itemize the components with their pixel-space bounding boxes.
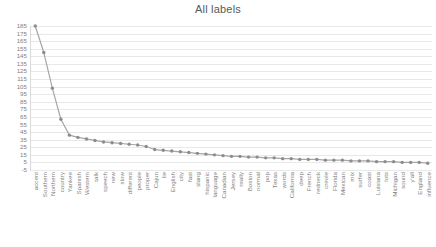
- data-point-marker: [255, 155, 258, 158]
- data-point-marker: [418, 161, 421, 164]
- data-point-marker: [281, 157, 284, 160]
- data-point-marker: [247, 155, 250, 158]
- y-axis-tick-label: 65: [20, 114, 27, 120]
- data-point-marker: [127, 143, 130, 146]
- data-point-marker: [366, 159, 369, 162]
- plot-area: [31, 26, 432, 170]
- data-point-marker: [34, 24, 37, 27]
- data-point-marker: [85, 137, 88, 140]
- data-point-marker: [93, 139, 96, 142]
- x-axis-tick-label: influence: [424, 172, 431, 197]
- data-point-marker: [76, 136, 79, 139]
- data-point-marker: [298, 158, 301, 161]
- data-point-marker: [230, 155, 233, 158]
- data-point-marker: [383, 160, 386, 163]
- data-point-marker: [264, 156, 267, 159]
- data-point-marker: [196, 152, 199, 155]
- y-axis-tick-label: -5: [21, 167, 27, 173]
- data-point-marker: [358, 159, 361, 162]
- y-axis-tick-label: 125: [17, 68, 27, 74]
- data-point-marker: [221, 154, 224, 157]
- data-point-marker: [400, 161, 403, 164]
- data-point-marker: [102, 140, 105, 143]
- y-axis: -551525354555657585951051151251351451551…: [0, 26, 29, 170]
- data-point-marker: [119, 142, 122, 145]
- chart-title: All labels: [0, 3, 436, 15]
- data-point-marker: [349, 159, 352, 162]
- data-point-marker: [59, 118, 62, 121]
- data-point-marker: [170, 149, 173, 152]
- chart-container: All labels -5515253545556575859510511512…: [0, 0, 436, 247]
- x-axis-tick: influence: [422, 172, 434, 246]
- data-point-marker: [375, 160, 378, 163]
- y-axis-tick-label: 15: [20, 152, 27, 158]
- y-axis-tick-label: 165: [17, 38, 27, 44]
- y-axis-tick-label: 5: [24, 159, 27, 165]
- y-axis-tick-label: 35: [20, 137, 27, 143]
- y-axis-tick-label: 145: [17, 53, 27, 59]
- y-axis-tick-label: 155: [17, 46, 27, 52]
- data-point-marker: [332, 158, 335, 161]
- y-axis-tick-label: 55: [20, 122, 27, 128]
- data-point-marker: [204, 152, 207, 155]
- y-axis-tick-label: 135: [17, 61, 27, 67]
- data-point-marker: [238, 155, 241, 158]
- data-point-marker: [136, 143, 139, 146]
- data-point-marker: [272, 156, 275, 159]
- y-axis-tick-label: 85: [20, 99, 27, 105]
- data-point-marker: [426, 161, 429, 164]
- x-axis: accentSouthernNortherncountryYankeeSpani…: [31, 172, 432, 247]
- data-point-marker: [68, 133, 71, 136]
- y-axis-tick-label: 185: [17, 23, 27, 29]
- data-point-marker: [290, 157, 293, 160]
- data-point-marker: [179, 150, 182, 153]
- data-point-marker: [153, 148, 156, 151]
- y-axis-tick-label: 175: [17, 31, 27, 37]
- data-point-marker: [144, 145, 147, 148]
- data-point-marker: [162, 149, 165, 152]
- y-axis-tick-label: 95: [20, 91, 27, 97]
- series-line: [35, 26, 427, 163]
- line-series: [31, 26, 432, 170]
- data-point-marker: [42, 51, 45, 54]
- y-axis-tick-label: 75: [20, 106, 27, 112]
- y-axis-tick-label: 45: [20, 129, 27, 135]
- data-point-marker: [51, 86, 54, 89]
- data-point-marker: [341, 158, 344, 161]
- data-point-marker: [213, 153, 216, 156]
- data-point-marker: [110, 141, 113, 144]
- data-point-marker: [409, 161, 412, 164]
- data-point-marker: [392, 160, 395, 163]
- y-axis-tick-label: 105: [17, 84, 27, 90]
- data-point-marker: [324, 158, 327, 161]
- y-axis-tick-label: 25: [20, 144, 27, 150]
- data-point-marker: [315, 158, 318, 161]
- data-point-marker: [307, 158, 310, 161]
- data-point-marker: [187, 151, 190, 154]
- y-axis-tick-label: 115: [17, 76, 27, 82]
